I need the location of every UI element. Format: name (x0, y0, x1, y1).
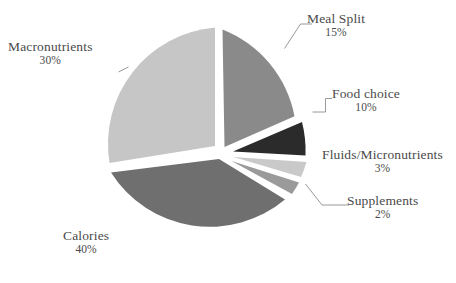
slice-label-value: 15% (307, 26, 365, 39)
pie-slice-meal-split[interactable] (223, 30, 295, 148)
slice-label-name: Calories (63, 228, 109, 243)
pie-slice-calories[interactable] (111, 159, 285, 227)
pie-chart: Meal Split 15% Food choice 10% Fluids/Mi… (0, 0, 456, 283)
slice-label-name: Fluids/Micronutrients (322, 147, 443, 162)
pie-slice-macronutrients[interactable] (108, 28, 215, 164)
leader-line-food-choice (313, 99, 333, 113)
leader-line-supplements (306, 184, 350, 205)
slice-label-name: Supplements (347, 193, 418, 208)
slice-label-value: 3% (322, 162, 443, 175)
slice-label-value: 2% (347, 208, 418, 221)
slice-label-name: Meal Split (307, 11, 365, 26)
slice-label-meal-split: Meal Split 15% (307, 11, 365, 39)
slice-label-value: 10% (332, 101, 400, 114)
slice-label-macronutrients: Macronutrients 30% (8, 39, 93, 67)
leader-line-macronutrients (119, 67, 129, 72)
slice-label-name: Macronutrients (8, 39, 93, 54)
slice-label-value: 30% (8, 54, 93, 67)
slice-label-name: Food choice (332, 86, 400, 101)
slice-label-supplements: Supplements 2% (347, 193, 418, 221)
slice-label-calories: Calories 40% (63, 228, 109, 256)
slice-label-fluids-micronutrients: Fluids/Micronutrients 3% (322, 147, 443, 175)
slice-label-food-choice: Food choice 10% (332, 86, 400, 114)
slice-label-value: 40% (63, 243, 109, 256)
